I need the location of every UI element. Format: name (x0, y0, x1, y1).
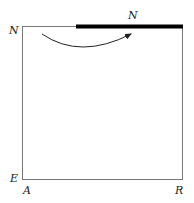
label-bottom-left: A (22, 184, 31, 197)
diagram: N N E A R (0, 0, 194, 203)
label-top-left: N (8, 24, 19, 37)
curved-arrow-icon (42, 34, 131, 47)
label-top-bar: N (127, 9, 138, 22)
label-bottom-left-side: E (9, 172, 18, 185)
label-bottom-right: R (174, 184, 183, 197)
square-frame (23, 27, 183, 180)
